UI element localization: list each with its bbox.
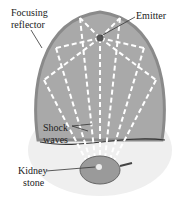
label-emitter: Emitter <box>136 11 166 21</box>
label-shock-waves: Shock waves <box>43 123 68 145</box>
kidney-stone-icon <box>96 164 102 170</box>
kidney-icon <box>80 156 120 184</box>
label-focusing-reflector: Focusing reflector <box>11 8 48 30</box>
label-kidney-stone: Kidney stone <box>18 166 47 188</box>
